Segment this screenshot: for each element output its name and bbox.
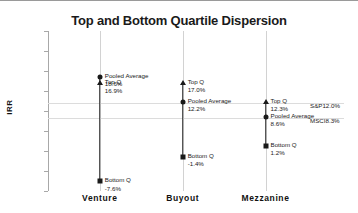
marker-venture-bottom-q bbox=[97, 179, 102, 184]
marker-mezzanine-bottom-q bbox=[263, 144, 268, 149]
range-bar-venture bbox=[99, 77, 101, 182]
y-tick bbox=[44, 151, 48, 152]
y-axis-line bbox=[48, 31, 49, 191]
y-axis-title: IRR bbox=[5, 99, 14, 114]
annotation-label: Bottom Q bbox=[188, 151, 214, 159]
marker-venture-pooled-average bbox=[97, 74, 102, 79]
marker-buyout-bottom-q bbox=[180, 154, 185, 159]
benchmark-sp: S&P12.0% bbox=[310, 102, 340, 110]
annotation-buyout-pooled-average: Pooled Average12.2% bbox=[188, 97, 232, 113]
annotation-label: Pooled Average bbox=[188, 97, 232, 105]
annotation-mezzanine-pooled-average: Pooled Average8.6% bbox=[271, 111, 315, 127]
marker-mezzanine-top-q bbox=[263, 99, 269, 104]
annotation-label: Pooled Average bbox=[271, 111, 315, 119]
benchmark-value: 12.0% bbox=[322, 102, 340, 109]
plot-area: 30%25%20%15%10%5%0%-5%-10% Pooled Averag… bbox=[48, 31, 344, 191]
benchmark-msci: MSCI8.3% bbox=[310, 117, 340, 125]
x-axis-label-venture: Venture bbox=[82, 193, 117, 203]
annotation-buyout-top-q: Top Q17.0% bbox=[188, 78, 206, 94]
annotation-value: 1.2% bbox=[271, 149, 297, 157]
y-tick bbox=[44, 71, 48, 72]
marker-mezzanine-pooled-average bbox=[263, 114, 268, 119]
annotation-label: Top Q bbox=[271, 97, 289, 105]
y-tick bbox=[44, 51, 48, 52]
benchmark-value: 8.3% bbox=[325, 117, 339, 124]
annotation-venture-top-q: Top Q16.9% bbox=[105, 78, 123, 94]
range-bar-mezzanine bbox=[265, 102, 267, 146]
marker-buyout-pooled-average bbox=[180, 100, 185, 105]
benchmark-label: S&P bbox=[310, 102, 322, 109]
annotation-venture-bottom-q: Bottom Q-7.6% bbox=[105, 176, 131, 192]
y-tick bbox=[44, 111, 48, 112]
annotation-value: -1.4% bbox=[188, 160, 214, 168]
benchmark-label: MSCI bbox=[310, 117, 325, 124]
annotation-label: Top Q bbox=[188, 78, 206, 86]
y-tick bbox=[44, 131, 48, 132]
y-tick bbox=[44, 191, 48, 192]
y-tick bbox=[44, 171, 48, 172]
annotation-value: -7.6% bbox=[105, 184, 131, 192]
marker-buyout-top-q bbox=[180, 80, 186, 85]
y-tick bbox=[44, 91, 48, 92]
annotation-label: Top Q bbox=[105, 78, 123, 86]
annotation-mezzanine-bottom-q: Bottom Q1.2% bbox=[271, 141, 297, 157]
x-axis-label-mezzanine: Mezzanine bbox=[242, 193, 290, 203]
annotation-value: 8.6% bbox=[271, 120, 315, 128]
range-bar-buyout bbox=[182, 83, 184, 157]
annotation-label: Bottom Q bbox=[271, 141, 297, 149]
x-axis-label-buyout: Buyout bbox=[166, 193, 199, 203]
y-tick bbox=[44, 31, 48, 32]
chart-frame: Top and Bottom Quartile Dispersion IRR 3… bbox=[0, 0, 358, 213]
annotation-value: 12.2% bbox=[188, 105, 232, 113]
annotation-buyout-bottom-q: Bottom Q-1.4% bbox=[188, 151, 214, 167]
annotation-label: Bottom Q bbox=[105, 176, 131, 184]
marker-venture-top-q bbox=[97, 80, 103, 85]
chart-title: Top and Bottom Quartile Dispersion bbox=[0, 13, 358, 28]
annotation-value: 17.0% bbox=[188, 86, 206, 94]
annotation-value: 16.9% bbox=[105, 86, 123, 94]
